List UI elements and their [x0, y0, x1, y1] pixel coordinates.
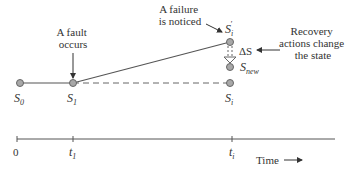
state-node-s1 — [70, 80, 77, 87]
state-node-snew — [227, 64, 234, 71]
tick-label-ti: ti — [229, 145, 235, 161]
delta-s-arrow — [224, 46, 236, 63]
fault-recovery-diagram: S0 S1 Si Si′ Snew ΔS A fault occurs A fa… — [0, 0, 357, 172]
state-node-si-prime — [227, 39, 234, 46]
label-s0: S0 — [14, 91, 24, 107]
state-node-si — [227, 80, 234, 87]
time-axis-label: Time — [256, 154, 279, 166]
tick-label-0: 0 — [13, 146, 19, 158]
annotation-fault: A fault occurs — [57, 26, 90, 50]
label-si-prime: Si′ — [225, 20, 233, 38]
label-s1: S1 — [67, 91, 77, 107]
faulty-path-line — [73, 42, 230, 83]
tick-label-t1: t1 — [69, 145, 76, 161]
label-snew: Snew — [240, 60, 260, 76]
state-node-s0 — [17, 80, 24, 87]
annotation-failure: A failure is noticed — [159, 3, 202, 27]
failure-arrow — [206, 24, 222, 32]
label-si: Si — [225, 91, 233, 107]
annotation-recovery: Recovery actions change the state — [279, 25, 347, 61]
label-delta-s: ΔS — [239, 45, 252, 57]
